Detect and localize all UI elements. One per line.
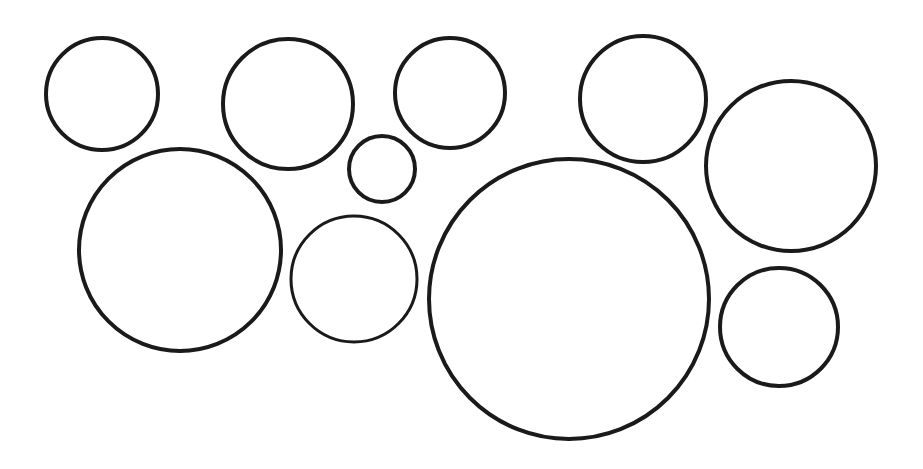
background [0, 0, 923, 469]
circles-diagram [0, 0, 923, 469]
